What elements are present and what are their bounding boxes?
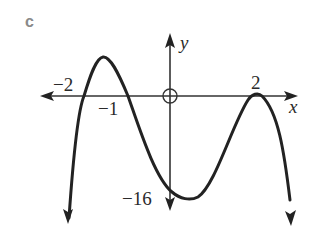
x-axis-label: x: [288, 96, 298, 117]
tick-label-neg1: −1: [98, 98, 118, 119]
tick-label-neg2: −2: [53, 74, 73, 95]
curve-right-arrow-icon: [285, 210, 296, 226]
y-axis-label: y: [178, 32, 189, 53]
tick-label-pos2: 2: [251, 72, 261, 93]
tick-label-neg16: −16: [122, 188, 152, 209]
polynomial-graph: −2 −1 2 −16 y x: [0, 0, 312, 232]
